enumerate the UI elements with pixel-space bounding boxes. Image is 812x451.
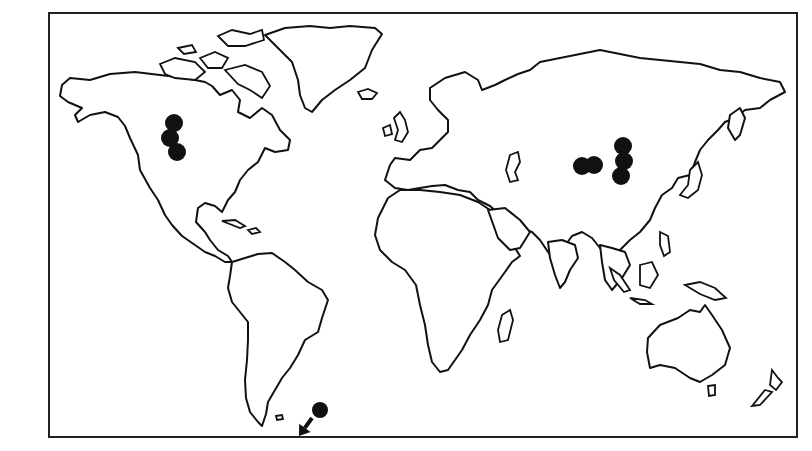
arctic-island <box>218 30 264 46</box>
great-britain <box>394 112 408 142</box>
location-marker-north-america <box>168 143 186 161</box>
new-zealand-north <box>770 370 782 390</box>
ireland <box>383 125 392 136</box>
cuba <box>222 220 245 228</box>
arctic-island <box>200 52 228 68</box>
arrow-marker <box>299 418 312 436</box>
borneo <box>640 262 658 288</box>
tasmania <box>708 385 715 396</box>
continents <box>60 26 785 426</box>
arctic-island <box>178 45 196 54</box>
iceland <box>358 89 377 99</box>
philippines <box>660 232 670 256</box>
south-america <box>228 253 328 426</box>
location-marker-central-asia-east <box>615 152 633 170</box>
location-marker-antarctic-peninsula <box>312 402 328 418</box>
new-guinea <box>685 282 726 300</box>
java <box>630 298 652 304</box>
location-marker-central-asia-west <box>585 156 603 174</box>
hispaniola <box>248 228 260 234</box>
new-zealand-south <box>752 390 772 406</box>
madagascar <box>498 310 513 342</box>
location-marker-central-asia-east <box>612 167 630 185</box>
falkland-islands <box>276 415 283 420</box>
india <box>548 240 578 288</box>
australia <box>647 305 730 382</box>
arrow-shaft <box>305 418 312 428</box>
world-map <box>0 0 812 451</box>
